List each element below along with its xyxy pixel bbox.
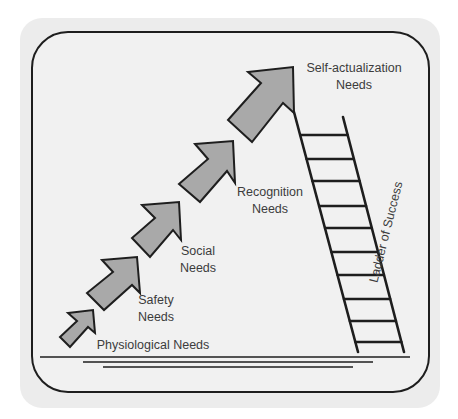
label-social-needs: Social Needs <box>170 243 226 277</box>
label-line: Social <box>170 243 226 260</box>
label-recognition-needs: Recognition Needs <box>228 184 312 218</box>
diagram-canvas: Physiological Needs Safety Needs Social … <box>0 0 458 419</box>
label-line: Self-actualization <box>294 60 414 77</box>
label-line: Recognition <box>228 184 312 201</box>
label-physiological-needs: Physiological Needs <box>88 337 218 354</box>
label-safety-needs: Safety Needs <box>128 292 184 326</box>
label-line: Needs <box>294 77 414 94</box>
label-line: Needs <box>128 309 184 326</box>
label-line: Safety <box>128 292 184 309</box>
label-line: Needs <box>228 201 312 218</box>
label-line: Needs <box>170 260 226 277</box>
label-line: Physiological Needs <box>97 338 210 352</box>
label-self-actualization-needs: Self-actualization Needs <box>294 60 414 94</box>
